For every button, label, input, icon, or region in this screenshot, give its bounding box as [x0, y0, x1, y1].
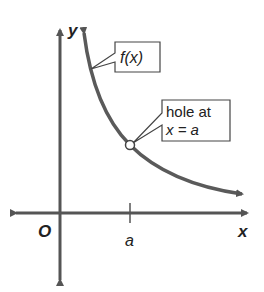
function-label: f(x): [120, 49, 143, 66]
origin-label: O: [38, 222, 51, 241]
x-axis-label: x: [237, 222, 249, 241]
graph-canvas: y x O a f(x) hole at x = a: [0, 0, 264, 292]
hole-marker: [126, 141, 135, 150]
y-axis-label: y: [67, 21, 79, 40]
graph-diagram: y x O a f(x) hole at x = a: [0, 0, 264, 292]
callout-line1: hole at: [166, 103, 212, 120]
callout-line2: x = a: [165, 121, 199, 138]
tick-a-label: a: [125, 232, 134, 249]
